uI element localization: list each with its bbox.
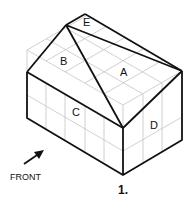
figure-number: 1. xyxy=(118,183,128,197)
face-label-d: D xyxy=(150,120,158,131)
grid-lines xyxy=(27,16,182,163)
face-label-a: A xyxy=(120,67,127,78)
face-label-e: E xyxy=(83,17,90,28)
front-label: FRONT xyxy=(10,172,41,182)
face-label-c: C xyxy=(72,107,80,118)
isometric-figure xyxy=(0,0,196,201)
front-arrow-icon xyxy=(34,150,44,159)
face-label-b: B xyxy=(60,56,67,67)
